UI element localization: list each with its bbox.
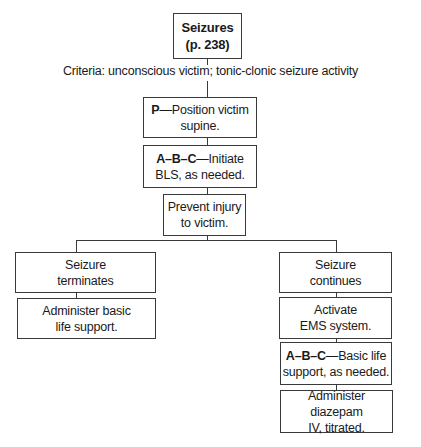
title-box-seizures: Seizures (p. 238) (173, 13, 242, 59)
connector-criteria-p (207, 81, 208, 97)
abc-basic-letters: A–B–C (286, 349, 326, 363)
branch-seizure-continues-box: Seizure continues (279, 252, 392, 293)
diazepam-line2: IV, titrated. (308, 421, 365, 435)
activate-ems-line1: Activate (314, 303, 357, 317)
title-page-ref: (p. 238) (186, 37, 230, 52)
administer-basic-life-support-box: Administer basic life support. (17, 298, 156, 339)
step-position-dash: — (159, 103, 171, 117)
step-position-line2: supine. (181, 119, 220, 133)
terminates-line2: terminates (57, 274, 113, 288)
abc-basic-life-support-box: A–B–C—Basic life support, as needed. (280, 342, 392, 385)
abc-basic-line2: support, as needed. (283, 365, 390, 379)
administer-basic-line1: Administer basic (42, 304, 131, 318)
abc-basic-line1: Basic life (338, 349, 386, 363)
step-position-box: P—Position victim supine. (143, 97, 257, 138)
step-position-line1: Position victim (172, 103, 249, 117)
step-abc-line1: Initiate (209, 152, 244, 166)
step-abc-dash: — (196, 152, 208, 166)
connector-split-right (336, 240, 337, 252)
connector-p-abc (207, 137, 208, 145)
step-abc-letters: A–B–C (156, 152, 196, 166)
step-abc-line2: BLS, as needed. (155, 168, 244, 182)
activate-ems-box: Activate EMS system. (279, 297, 392, 339)
criteria-text: Criteria: unconscious victim; tonic-clon… (0, 64, 421, 78)
connector-abc-prevent (207, 187, 208, 194)
continues-line2: continues (310, 274, 362, 288)
step-prevent-line2: to victim. (181, 216, 228, 230)
step-prevent-injury-box: Prevent injury to victim. (163, 194, 246, 236)
terminates-line1: Seizure (65, 258, 106, 272)
connector-split-horizontal (76, 240, 337, 241)
diazepam-line1: Administer diazepam (308, 389, 365, 419)
connector-split-left (76, 240, 77, 252)
step-prevent-line1: Prevent injury (168, 200, 242, 214)
administer-basic-line2: life support. (55, 320, 117, 334)
continues-line1: Seizure (315, 258, 356, 272)
abc-basic-dash: — (326, 349, 338, 363)
title-line-1: Seizures (182, 20, 234, 35)
branch-seizure-terminates-box: Seizure terminates (15, 252, 156, 293)
activate-ems-line2: EMS system. (300, 319, 371, 333)
step-abc-bls-box: A–B–C—Initiate BLS, as needed. (143, 145, 257, 188)
administer-diazepam-box: Administer diazepam IV, titrated. (280, 390, 393, 433)
